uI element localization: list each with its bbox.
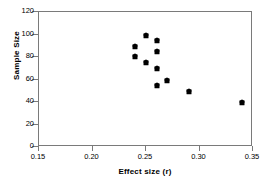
data-points-layer bbox=[39, 12, 251, 145]
scatter-plot-figure: Sample Size 020406080100120 0.150.200.25… bbox=[0, 0, 271, 185]
y-tick-label: 40 bbox=[0, 97, 34, 105]
x-tick-mark bbox=[145, 146, 146, 151]
x-tick-mark bbox=[252, 146, 253, 151]
x-tick-label: 0.20 bbox=[76, 152, 108, 161]
x-tick-mark bbox=[92, 146, 93, 151]
data-point bbox=[143, 59, 149, 65]
data-point bbox=[132, 43, 138, 49]
data-point bbox=[154, 82, 160, 88]
data-point bbox=[165, 77, 171, 83]
x-tick-mark bbox=[199, 146, 200, 151]
y-tick-label: 100 bbox=[0, 30, 34, 38]
data-point bbox=[154, 65, 160, 71]
data-point bbox=[154, 49, 160, 55]
x-tick-label: 0.15 bbox=[22, 152, 54, 161]
x-tick-label: 0.25 bbox=[129, 152, 161, 161]
x-tick-mark bbox=[38, 146, 39, 151]
y-tick-label: 80 bbox=[0, 52, 34, 60]
data-point bbox=[154, 37, 160, 43]
y-tick-label: 120 bbox=[0, 7, 34, 15]
data-point bbox=[239, 99, 245, 105]
x-axis-title: Effect size (r) bbox=[38, 167, 252, 176]
plot-area bbox=[38, 11, 252, 146]
data-point bbox=[143, 32, 149, 38]
data-point bbox=[186, 88, 192, 94]
y-tick-label: 0 bbox=[0, 142, 34, 150]
x-tick-label: 0.30 bbox=[183, 152, 215, 161]
y-tick-label: 20 bbox=[0, 120, 34, 128]
x-tick-label: 0.35 bbox=[236, 152, 268, 161]
y-tick-label: 60 bbox=[0, 75, 34, 83]
data-point bbox=[132, 54, 138, 60]
